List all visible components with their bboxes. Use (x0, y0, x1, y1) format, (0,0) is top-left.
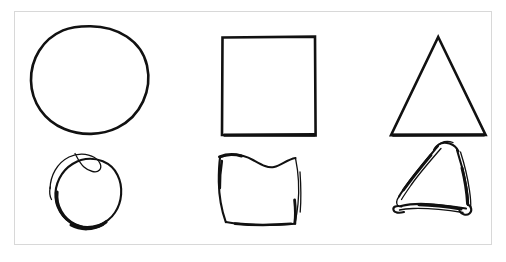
square-outline-icon (205, 22, 317, 134)
triangle-sketch-icon (387, 138, 489, 230)
shape-cell-triangle-clean (385, 22, 487, 134)
circle-outline-icon (29, 24, 151, 136)
shape-cell-square-clean (205, 22, 317, 134)
shape-cell-circle-clean (29, 24, 151, 136)
circle-sketch-icon (41, 144, 139, 236)
shape-cell-circle-sketch (41, 144, 139, 236)
shape-cell-square-sketch (205, 142, 317, 234)
shape-comparison-panel (14, 11, 492, 245)
triangle-outline-icon (385, 22, 487, 134)
shape-cell-triangle-sketch (387, 138, 489, 230)
square-sketch-icon (205, 142, 317, 234)
